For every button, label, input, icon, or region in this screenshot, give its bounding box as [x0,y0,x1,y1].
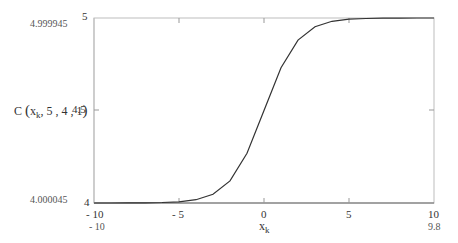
y-bottom-marker: 4.000045 [30,194,68,205]
y-axis-func-name: C [14,104,22,118]
y-top-marker: 4.999945 [30,18,68,29]
plot-svg [0,0,458,243]
ytick-5: 5 [82,10,88,22]
xtick-minus-10: - 10 [86,208,103,220]
xtick-minus-5: - 5 [172,208,184,220]
x-axis-label: xk [259,219,270,235]
x-left-marker: - 10 [89,221,105,232]
xtick-5: 5 [346,208,352,220]
ytick-4: 4 [84,196,90,208]
y-axis-label: C (xk, 5 , 4 , 1) [14,102,88,120]
xtick-10: 10 [428,208,439,220]
x-right-marker: 9.8 [428,221,441,232]
logistic-curve [94,18,434,203]
